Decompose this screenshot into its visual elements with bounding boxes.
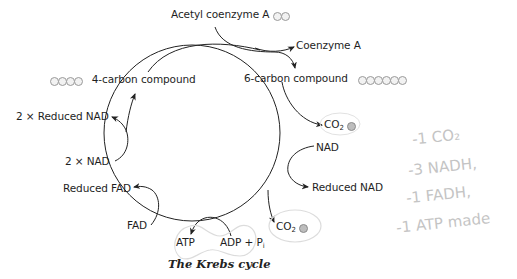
diagram-caption: The Krebs cycle: [168, 257, 271, 271]
reduced-nad-label: Reduced NAD: [312, 181, 383, 193]
six-carbon-atoms-icon: [358, 73, 406, 85]
co2-bottom-atom-icon: [299, 221, 307, 233]
four-carbon-text: 4-carbon compound: [92, 73, 196, 85]
reduced-fad-label: Reduced FAD: [63, 182, 131, 194]
adp-pi-label: ADP + Pi: [220, 236, 265, 250]
coenzyme-a-label: Coenzyme A: [296, 39, 361, 51]
co2-bottom-subscript: 2: [291, 226, 295, 234]
co2-top-label: CO2: [324, 118, 355, 132]
co2-top-atom-icon: [347, 119, 355, 131]
atp-label: ATP: [176, 236, 195, 248]
two-nad-label: 2 × NAD: [65, 155, 110, 167]
fad-label: FAD: [127, 219, 147, 231]
acetyl-carbon-atoms-icon: [273, 9, 289, 21]
adp-text: ADP + P: [220, 236, 263, 248]
four-carbon-compound-label: 4-carbon compound: [50, 73, 196, 86]
krebs-cycle-diagram: Acetyl coenzyme A Coenzyme A 6-carbon co…: [0, 0, 517, 279]
six-carbon-text: 6-carbon compound: [244, 72, 348, 84]
nad-label: NAD: [316, 141, 339, 153]
co2-top-subscript: 2: [339, 124, 343, 132]
four-carbon-atoms-icon: [50, 74, 82, 86]
six-carbon-compound-label: 6-carbon compound: [244, 72, 406, 85]
co2-bottom-text: CO: [276, 220, 291, 232]
acetyl-coa-text: Acetyl coenzyme A: [171, 8, 269, 20]
acetyl-coa-label: Acetyl coenzyme A: [171, 8, 289, 21]
two-reduced-nad-label: 2 × Reduced NAD: [16, 110, 109, 122]
co2-top-text: CO: [324, 118, 339, 130]
pi-subscript: i: [263, 242, 265, 250]
co2-bottom-label: CO2: [276, 220, 307, 234]
